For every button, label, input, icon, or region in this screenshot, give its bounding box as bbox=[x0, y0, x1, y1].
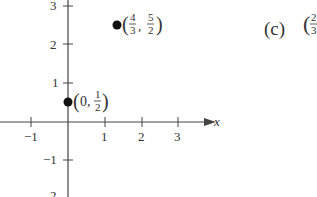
svg-text:0,: 0, bbox=[80, 94, 91, 109]
y-tick-label: 1 bbox=[52, 75, 59, 90]
svg-text:(: ( bbox=[122, 13, 129, 36]
x-tick-label: 2 bbox=[138, 129, 145, 144]
svg-text:): ) bbox=[102, 90, 109, 113]
data-point bbox=[64, 98, 73, 107]
point-label: ( 4 3 , 5 2 ) bbox=[122, 11, 163, 36]
svg-text:(: ( bbox=[303, 11, 310, 36]
data-point bbox=[113, 21, 122, 30]
svg-text:2: 2 bbox=[311, 11, 317, 23]
x-axis-label: x bbox=[213, 114, 220, 129]
part-label: (c) bbox=[264, 18, 285, 40]
svg-text:(: ( bbox=[73, 90, 80, 113]
y-tick-label: −1 bbox=[43, 152, 57, 167]
svg-text:,: , bbox=[138, 18, 141, 33]
y-tick-label: 3 bbox=[50, 0, 57, 13]
x-tick-label: 1 bbox=[101, 129, 108, 144]
cropped-fraction: ( 2 3 bbox=[303, 11, 317, 36]
svg-text:4: 4 bbox=[130, 11, 136, 23]
y-tick-label: 2 bbox=[50, 188, 57, 197]
point-label: ( 0, 1 2 ) bbox=[73, 88, 109, 113]
svg-text:3: 3 bbox=[130, 24, 136, 36]
svg-text:): ) bbox=[156, 13, 163, 36]
y-tick-label: 2 bbox=[50, 37, 57, 52]
x-tick-label: 3 bbox=[174, 129, 181, 144]
svg-text:3: 3 bbox=[311, 24, 317, 36]
svg-text:1: 1 bbox=[95, 88, 101, 100]
svg-text:2: 2 bbox=[95, 101, 101, 113]
svg-text:5: 5 bbox=[148, 11, 154, 23]
x-tick-label: −1 bbox=[24, 129, 38, 144]
svg-text:2: 2 bbox=[148, 24, 154, 36]
